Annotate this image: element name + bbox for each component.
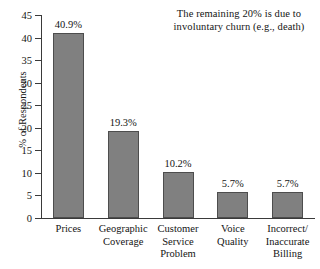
bar <box>217 192 248 218</box>
x-axis-category-line: Problem <box>145 248 211 261</box>
x-axis-category-line: Incorrect/ <box>255 223 320 236</box>
y-axis-tick <box>35 83 41 84</box>
chart-annotation: The remaining 20% is due to involuntary … <box>160 7 318 33</box>
y-axis-tick <box>35 38 41 39</box>
annotation-line-1: The remaining 20% is due to <box>160 7 318 20</box>
bar-value-label: 19.3% <box>93 117 153 128</box>
y-axis-tick-label: 15 <box>0 145 32 156</box>
bar <box>53 33 84 218</box>
y-axis-tick-label: 25 <box>0 100 32 111</box>
x-axis-line <box>41 218 315 219</box>
y-axis-tick <box>35 15 41 16</box>
x-axis-category-line: Billing <box>255 248 320 261</box>
y-axis-tick-label: 40 <box>0 32 32 43</box>
y-axis-tick-label: 30 <box>0 77 32 88</box>
x-axis-category-line: Inaccurate <box>255 236 320 249</box>
y-axis-tick-label: 0 <box>0 213 32 224</box>
bar-value-label: 40.9% <box>38 19 98 30</box>
bar <box>272 192 303 218</box>
bar-value-label: 10.2% <box>148 158 208 169</box>
annotation-line-2: involuntary churn (e.g., death) <box>160 20 318 33</box>
bar <box>163 172 194 218</box>
bar-value-label: 5.7% <box>203 178 263 189</box>
y-axis-tick-label: 45 <box>0 10 32 21</box>
y-axis-tick <box>35 173 41 174</box>
bar-chart: The remaining 20% is due to involuntary … <box>0 0 320 269</box>
y-axis-tick <box>35 218 41 219</box>
y-axis-tick <box>35 105 41 106</box>
y-axis-tick <box>35 150 41 151</box>
y-axis-tick-label: 10 <box>0 167 32 178</box>
y-axis-tick-label: 35 <box>0 55 32 66</box>
bar <box>108 131 139 218</box>
y-axis-tick-label: 20 <box>0 122 32 133</box>
y-axis-tick <box>35 195 41 196</box>
x-axis-category-label: Incorrect/InaccurateBilling <box>255 223 320 261</box>
y-axis-tick <box>35 60 41 61</box>
y-axis-tick <box>35 128 41 129</box>
y-axis-line <box>41 15 42 219</box>
bar-value-label: 5.7% <box>258 178 318 189</box>
y-axis-tick-label: 5 <box>0 190 32 201</box>
